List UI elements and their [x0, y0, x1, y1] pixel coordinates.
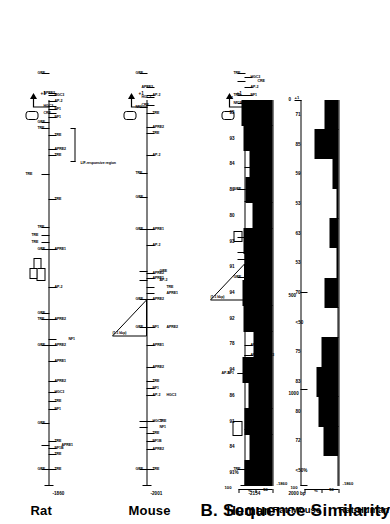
profile-y-tick-label: %	[248, 489, 252, 493]
site-tick	[146, 395, 154, 396]
site-label: GRE	[135, 468, 143, 472]
profile-segment	[316, 367, 338, 397]
site-label: AP-2	[54, 100, 62, 104]
site-label: HGC3	[141, 96, 151, 100]
site-label: TRE	[54, 400, 61, 404]
site-label: AP-2	[221, 372, 229, 376]
profile-segment-label: 83	[295, 380, 300, 385]
profile-segment-label: 84	[229, 162, 234, 167]
profile-segment-label: 85	[295, 142, 300, 147]
site-label: TRE	[54, 134, 61, 138]
species-label-mouse: Mouse	[128, 504, 170, 517]
profile-segment	[244, 460, 272, 486]
profile-segment-label: 91%	[229, 471, 238, 476]
site-label: NF1	[68, 338, 75, 342]
site-label: HGC3	[166, 394, 176, 398]
site-label: TRE	[54, 453, 61, 457]
site-label: CRE	[257, 80, 264, 84]
site-label: GRE	[135, 298, 143, 302]
site-tick	[48, 339, 56, 340]
profile-y-tick-label: 50	[263, 488, 268, 492]
profile-x-start-label: -1860	[342, 482, 353, 486]
profile-segment	[323, 426, 338, 456]
profile-segment	[314, 129, 338, 159]
profile-segment-label: <50	[295, 320, 303, 325]
site-label: HGC3	[54, 94, 64, 98]
profile-segment-label: 75	[295, 350, 300, 355]
profile-segment-label: 94	[229, 368, 234, 373]
profile-y-tick	[338, 489, 339, 493]
site-label: HGC3	[43, 105, 53, 109]
profile-segment-label: <50%	[295, 469, 307, 474]
rat-start-tick	[44, 485, 53, 486]
profile-segment	[248, 383, 272, 409]
profile-y-tick-label: 50	[329, 488, 334, 492]
site-label: GRE	[37, 72, 45, 76]
human-insert-size: (1.1 kbp)	[210, 296, 224, 300]
site-label: HGC3	[152, 420, 162, 424]
profile-x-end-label: +1	[294, 96, 299, 100]
profile-segment	[243, 228, 272, 254]
site-label: GRE	[135, 228, 143, 232]
site-tick	[237, 189, 245, 190]
profile-segment	[332, 159, 338, 189]
site-label: APRE2	[54, 380, 65, 384]
site-tick	[41, 235, 49, 236]
profile-segment-label: 71	[295, 113, 300, 118]
site-label: GRE	[233, 276, 241, 280]
scale-tick-500	[300, 292, 307, 293]
site-label: TRE	[25, 173, 32, 177]
profile-segment	[244, 254, 272, 280]
site-label: TRE	[152, 112, 159, 116]
profile-segment-label: 93	[229, 239, 234, 244]
site-label: APRE2	[43, 92, 54, 96]
site-label: APRE2	[152, 298, 163, 302]
profile-segment	[324, 278, 338, 308]
site-label: TRE	[233, 94, 240, 98]
site-label: TRE	[54, 154, 61, 158]
site-label: AP-2	[152, 154, 160, 158]
profile-y-tick	[304, 489, 305, 493]
site-label: TRE	[54, 198, 61, 202]
species-label-rat: Rat	[30, 504, 52, 517]
site-tick	[244, 355, 252, 356]
profile-y-tick	[321, 489, 322, 493]
site-label: GRE	[37, 468, 45, 472]
site-label: NF1	[54, 408, 61, 412]
site-tick	[41, 242, 49, 243]
profile-segment	[324, 100, 338, 130]
site-label: GRE	[37, 344, 45, 348]
site-label: TRE	[152, 432, 159, 436]
profile-segment	[318, 396, 338, 426]
mouse-start-coord: -2001	[150, 492, 162, 497]
mouse-start-tick	[142, 485, 151, 486]
profile-segment	[337, 307, 338, 337]
site-tick	[139, 427, 147, 428]
site-tick	[146, 327, 154, 328]
site-label: APRE2	[152, 448, 163, 452]
site-label: APRE1	[152, 344, 163, 348]
rat-start-coord: -1860	[52, 492, 64, 497]
profile-segment	[336, 248, 338, 278]
site-label: GRE	[37, 422, 45, 426]
site-label: CRE	[141, 104, 148, 108]
chart-title-rat-mouse: Rat-Mouse	[272, 505, 321, 515]
site-label: AP-2	[54, 286, 62, 290]
site-label: TRE	[166, 286, 173, 290]
site-label: APRE2	[54, 318, 65, 322]
rat-exon-box	[25, 111, 38, 120]
site-tick	[139, 271, 147, 272]
rat-backbone	[48, 100, 49, 486]
rat-lif-annotation: LIF-responsive region	[80, 162, 115, 166]
scale-tick-right	[294, 100, 301, 101]
profile-segment-label: 84	[229, 445, 234, 450]
profile-segment	[321, 337, 338, 367]
site-label: APRE2	[166, 326, 177, 330]
profile-segment-label: 72	[295, 439, 300, 444]
profile-segment	[336, 189, 338, 219]
site-tick	[146, 287, 154, 288]
profile-segment-label: 93	[229, 136, 234, 141]
site-label: GRE	[37, 121, 45, 125]
